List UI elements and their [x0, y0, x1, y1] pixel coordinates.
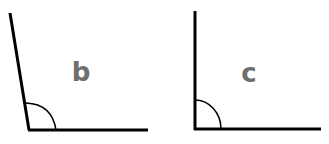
angle-b-slanted-ray [10, 13, 29, 130]
angle-c-label: c [241, 58, 256, 88]
angle-b: b [10, 13, 148, 130]
angle-diagram: b c [0, 0, 329, 144]
angle-c: c [194, 11, 321, 130]
angle-c-arc [195, 100, 221, 129]
angle-b-label: b [72, 57, 91, 87]
angle-b-arc [26, 103, 56, 130]
